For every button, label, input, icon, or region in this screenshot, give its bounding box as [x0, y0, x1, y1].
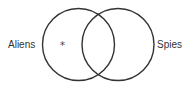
spies-label: Spies: [157, 39, 182, 50]
spies-circle: [82, 9, 154, 81]
aliens-circle: [43, 9, 115, 81]
venn-svg: Aliens Spies *: [0, 0, 190, 87]
asterisk-marker: *: [60, 40, 65, 51]
venn-diagram: Aliens Spies *: [0, 0, 190, 87]
aliens-label: Aliens: [8, 39, 35, 50]
